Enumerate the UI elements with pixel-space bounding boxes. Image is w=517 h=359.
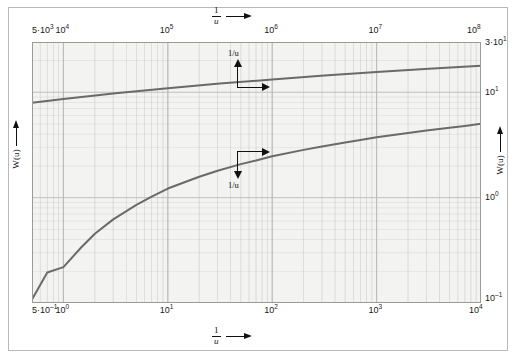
top-tick-2: 105: [160, 26, 174, 35]
bottom-axis-denominator: u: [212, 337, 221, 346]
top-tick-5: 108: [467, 26, 481, 35]
match-point-lower-hshaft: [237, 151, 265, 152]
match-point-lower-label: 1/u: [228, 180, 239, 190]
arrow-down-icon: [234, 171, 242, 179]
top-tick-3: 106: [264, 26, 278, 35]
bottom-axis-label: 1 u: [212, 326, 252, 347]
arrow-up-icon: [497, 126, 504, 152]
right-axis-label: W(u): [495, 126, 505, 175]
top-tick-4: 107: [369, 26, 383, 35]
top-tick-0: 5·103: [32, 26, 54, 35]
left-axis-label-text: W(u): [11, 149, 21, 169]
bottom-axis-numerator: 1: [212, 326, 221, 335]
bottom-axis-fraction: 1 u: [212, 326, 221, 347]
bottom-tick-0: 5·10–1: [32, 306, 57, 315]
match-point-upper-hshaft: [237, 87, 265, 88]
top-axis-denominator: u: [212, 17, 221, 26]
right-tick-3: 10–1: [485, 294, 502, 303]
bottom-tick-4: 103: [369, 306, 383, 315]
bottom-tick-1: 100: [55, 306, 69, 315]
figure-root: 1 u 5·103104105106107108 5·10–1100101102…: [0, 0, 517, 359]
arrow-right-icon: [262, 148, 270, 156]
bottom-tick-2: 101: [160, 306, 174, 315]
match-point-upper: 1/u: [228, 48, 290, 90]
arrow-up-icon: [234, 59, 242, 67]
right-axis-label-text: W(u): [495, 155, 505, 175]
top-tick-1: 104: [55, 26, 69, 35]
top-axis-numerator: 1: [212, 6, 221, 15]
arrow-right-icon: [262, 83, 270, 91]
left-axis-label: W(u): [11, 120, 21, 169]
bottom-tick-5: 104: [469, 306, 483, 315]
right-tick-2: 100: [485, 193, 499, 202]
top-axis-label: 1 u: [212, 6, 252, 27]
right-tick-1: 101: [485, 88, 499, 97]
arrow-up-icon: [13, 120, 20, 146]
arrow-right-icon: [226, 333, 252, 340]
top-axis-fraction: 1 u: [212, 6, 221, 27]
right-tick-0: 3·101: [485, 38, 507, 47]
arrow-right-icon: [226, 13, 252, 20]
match-point-lower: 1/u: [228, 142, 290, 188]
match-point-upper-label: 1/u: [228, 48, 239, 58]
match-point-lower-vshaft: [237, 151, 238, 173]
bottom-tick-3: 102: [264, 306, 278, 315]
match-point-upper-vshaft: [237, 66, 238, 88]
